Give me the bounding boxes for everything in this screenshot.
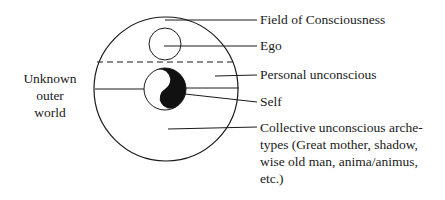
personal-unconscious-label: Personal unconscious <box>260 66 377 83</box>
ego-circle <box>149 28 181 60</box>
leader-self <box>185 94 257 102</box>
left-label-line: Unknown <box>14 70 86 87</box>
self-yin-yang-icon <box>144 60 194 112</box>
ego-label: Ego <box>260 37 282 54</box>
field-of-consciousness-label: Field of Consciousness <box>260 11 385 28</box>
leader-collective-unconscious <box>168 127 257 129</box>
collective-label-line: etc.) <box>260 170 445 187</box>
unknown-outer-world-label: Unknown outer world <box>14 70 86 121</box>
collective-unconscious-label: Collective unconscious arche- types (Gre… <box>260 119 445 187</box>
leader-personal-unconscious <box>215 75 257 76</box>
collective-label-line: wise old man, anima/animus, <box>260 153 445 170</box>
collective-label-line: types (Great mother, shadow, <box>260 136 445 153</box>
left-label-line: outer <box>14 87 86 104</box>
self-label: Self <box>260 93 282 110</box>
left-label-line: world <box>14 104 86 121</box>
collective-label-line: Collective unconscious arche- <box>260 119 445 136</box>
